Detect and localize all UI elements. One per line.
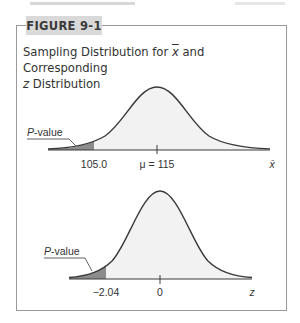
upper-curve-fill (48, 87, 270, 150)
upper-chart: P-value 105.0 μ = 115 x̄ (27, 87, 275, 170)
upper-pvalue-label: P-value (27, 126, 63, 138)
upper-mean-label: μ = 115 (140, 158, 175, 170)
lower-axis-label: z (248, 286, 255, 298)
lower-pvalue-leader-diag (85, 258, 92, 271)
upper-pvalue-leader-diag (69, 139, 76, 146)
lower-pvalue-label: P-value (44, 245, 80, 257)
lower-zero-label: 0 (157, 286, 163, 298)
upper-axis-label: x̄ (268, 158, 275, 170)
lower-chart: P-value −2.04 0 z (44, 191, 255, 298)
lower-curve-fill (69, 191, 252, 279)
charts-canvas: P-value 105.0 μ = 115 x̄ P-value −2.04 0… (0, 0, 300, 323)
lower-critical-label: −2.04 (93, 286, 120, 298)
upper-critical-label: 105.0 (81, 158, 107, 170)
